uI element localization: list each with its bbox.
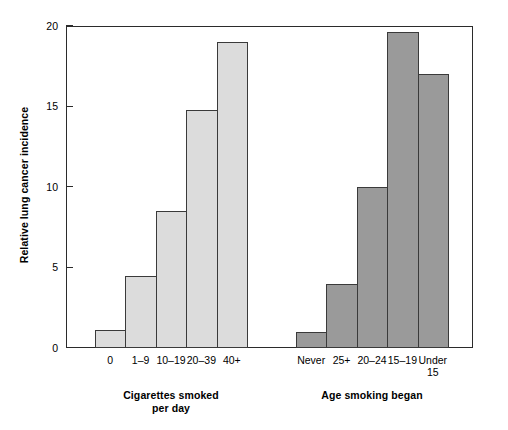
bar (357, 187, 389, 348)
bar (418, 74, 450, 348)
bar (217, 42, 249, 348)
y-tick-mark (66, 186, 73, 187)
y-tick-mark (66, 267, 73, 268)
y-tick-label: 0 (18, 343, 58, 354)
x-tick-label: Under 15 (403, 354, 463, 378)
chart-figure: Relative lung cancer incidence 05101520 … (0, 0, 508, 430)
group-caption: Age smoking began (262, 389, 482, 402)
bar (186, 110, 218, 348)
bar (387, 32, 419, 348)
group-caption-line: Cigarettes smoked (61, 389, 281, 402)
bar (125, 276, 157, 348)
group-caption: Cigarettes smokedper day (61, 389, 281, 415)
group-caption-line: Age smoking began (262, 389, 482, 402)
y-tick-mark (66, 25, 73, 26)
bar (296, 332, 328, 348)
y-tick-mark (66, 347, 73, 348)
group-caption-line: per day (61, 402, 281, 415)
bar (326, 284, 358, 348)
y-tick-label: 15 (18, 101, 58, 112)
y-tick-mark (66, 106, 73, 107)
bar (156, 211, 188, 348)
y-tick-label: 10 (18, 182, 58, 193)
x-tick-label: 40+ (202, 354, 262, 366)
y-tick-label: 5 (18, 262, 58, 273)
y-tick-label: 20 (18, 21, 58, 32)
y-axis-title: Relative lung cancer incidence (18, 0, 30, 70)
bar (95, 330, 127, 348)
